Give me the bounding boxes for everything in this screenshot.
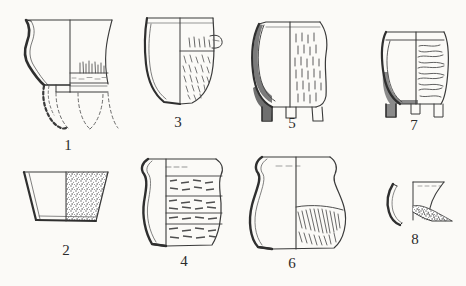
vessel-6-drawing: [250, 157, 346, 249]
vessel-label-5: 5: [280, 116, 304, 131]
vessel-label-8: 8: [403, 232, 427, 247]
vessel-label-6: 6: [280, 256, 304, 271]
vessel-label-2: 2: [54, 243, 78, 258]
vessel-label-4: 4: [172, 254, 196, 269]
vessel-7-drawing: [382, 32, 448, 117]
vessel-1-drawing: [25, 20, 118, 129]
vessel-label-1: 1: [56, 138, 80, 153]
vessel-2-drawing: [24, 172, 108, 221]
vessel-label-7: 7: [402, 118, 426, 133]
vessel-label-3: 3: [166, 115, 190, 130]
vessel-4-drawing: [142, 159, 222, 246]
vessel-3-drawing: [145, 18, 222, 104]
vessel-8-drawing: [388, 182, 452, 225]
pottery-plate: 1 2 3 4 5 6 7 8: [0, 0, 466, 286]
vessel-5-drawing: [252, 22, 327, 121]
